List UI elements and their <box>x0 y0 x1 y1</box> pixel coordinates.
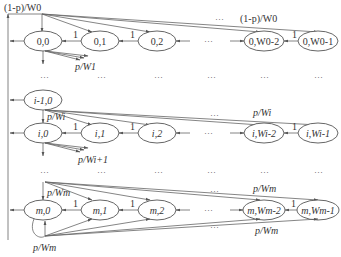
label-p-wm-right-top: p/Wm <box>252 183 276 194</box>
ellipsis: ··· <box>154 72 163 82</box>
label-one: 1 <box>292 121 297 132</box>
ellipsis: ··· <box>40 167 49 177</box>
label-one: 1 <box>291 198 296 209</box>
state-label: i,2 <box>152 128 162 139</box>
state-label: 0,1 <box>94 36 107 47</box>
ellipsis: ··· <box>154 167 163 177</box>
state-label: i,Wi-2 <box>252 128 276 139</box>
label-top-left: (1-p)/W0 <box>4 2 41 14</box>
state-label: 0,2 <box>151 36 164 47</box>
label-one: 1 <box>130 121 135 132</box>
label-top-right: (1-p)/W0 <box>240 13 277 25</box>
label-one: 1 <box>73 29 78 40</box>
ellipsis: ··· <box>210 186 219 196</box>
label-p-wi1: p/Wi+1 <box>77 154 108 165</box>
state-label: m,Wm-2 <box>247 205 281 216</box>
ellipsis: ··· <box>207 72 216 82</box>
ellipsis: ··· <box>210 222 219 232</box>
ellipsis: ··· <box>204 205 213 215</box>
state-label: m,1 <box>93 205 108 216</box>
label-one: 1 <box>130 198 135 209</box>
ellipsis: ··· <box>260 167 269 177</box>
state-label: m,0 <box>36 205 51 216</box>
ellipsis: ··· <box>314 72 323 82</box>
label-one: 1 <box>292 29 297 40</box>
state-label: i,0 <box>38 128 48 139</box>
label-p-w1: p/W1 <box>74 61 96 72</box>
label-p-wm-bottom: p/Wm <box>32 242 56 253</box>
state-label: i,1 <box>95 128 105 139</box>
label-one: 1 <box>73 198 78 209</box>
label-one: 1 <box>73 121 78 132</box>
label-one: 1 <box>130 29 135 40</box>
ellipsis: ··· <box>97 72 106 82</box>
state-label: i,Wi-1 <box>306 128 330 139</box>
ellipsis: ··· <box>314 167 323 177</box>
ellipsis: ··· <box>204 128 213 138</box>
ellipsis: ··· <box>210 110 219 120</box>
ellipsis: ··· <box>204 36 213 46</box>
state-label: i-1,0 <box>34 95 53 106</box>
state-label: 0,0 <box>37 36 50 47</box>
state-label: 0,W0-1 <box>303 36 333 47</box>
state-label: m,2 <box>150 205 165 216</box>
ellipsis: ··· <box>97 167 106 177</box>
ellipsis: ··· <box>215 14 224 24</box>
state-label: m,Wm-1 <box>301 205 335 216</box>
ellipsis: ··· <box>207 167 216 177</box>
markov-chain-diagram: (1-p)/W0 (1-p)/W0 ··· 0,0 0,1 0,2 0,W0-2… <box>0 0 341 257</box>
label-p-wm-right-bottom: p/Wm <box>254 225 278 236</box>
ellipsis: ··· <box>260 72 269 82</box>
ellipsis: ··· <box>40 72 49 82</box>
state-label: 0,W0-2 <box>249 36 279 47</box>
label-p-wi-right: p/Wi <box>252 107 272 118</box>
label-p-wm-top: p/Wm <box>46 187 70 198</box>
